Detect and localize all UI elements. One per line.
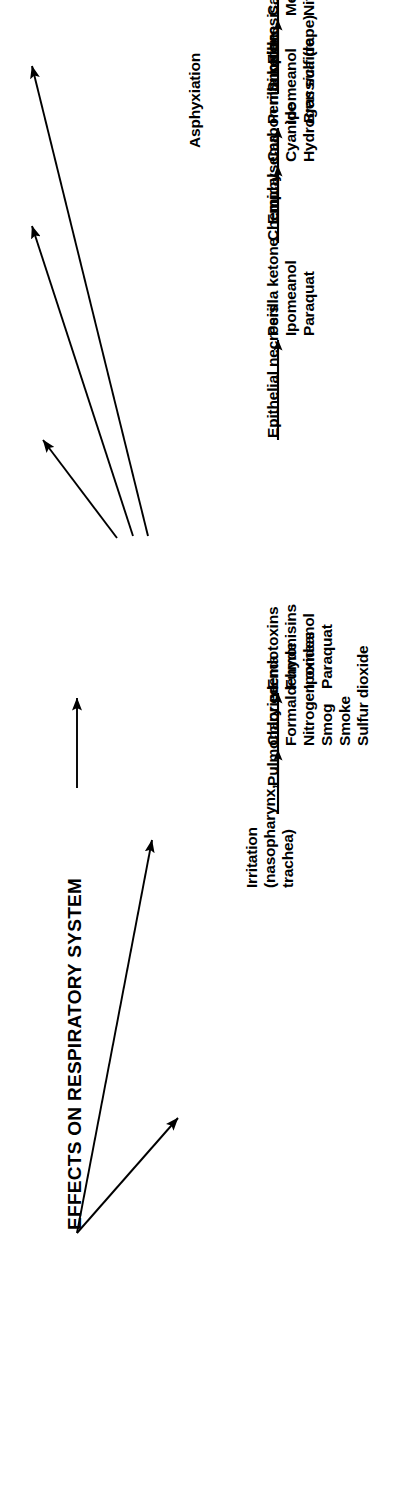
leaf-item: Sulfur dioxide [354, 632, 372, 746]
node-irritation-line1: Irritation [243, 785, 261, 888]
leaf-item-brassica-genus: Brassica [300, 61, 317, 124]
leaf-item: Carbon dioxide [264, 0, 282, 16]
leaf-item: Ipomeanol [282, 15, 300, 124]
leaf-item: Smoke [336, 632, 354, 746]
page-title: EFFECTS ON RESPIRATORY SYSTEM [64, 878, 86, 1230]
node-irritation: Irritation (nasopharynx, trachea) [243, 785, 297, 888]
edge-root-irritation [77, 840, 152, 1233]
edge-root-asphyxiation [77, 1118, 178, 1233]
leaf-item: Nitrogen [300, 0, 318, 16]
leaf-item: Paraquat [318, 604, 336, 689]
leaf-item: Paraquat [300, 238, 318, 336]
leaf-item-brassica: Brassica (rape) [300, 15, 318, 124]
leaf-item: Ipomeanol [300, 604, 318, 689]
leaf-item: Endotoxins [264, 604, 282, 689]
node-irritation-line2: (nasopharynx, [261, 785, 279, 888]
leaf-item: Perilla ketone [264, 15, 282, 124]
leaf-list-epithelial-necrosis: Perilla ketone Ipomeanol Paraquat [264, 238, 318, 336]
leaf-list-simple: Carbon dioxide Methane Nitrogen [264, 0, 318, 16]
leaf-list-emphysema: Perilla ketone Ipomeanol Brassica (rape) [264, 15, 318, 124]
node-asphyxiation: Asphyxiation [186, 53, 204, 148]
leaf-item: Ipomeanol [282, 238, 300, 336]
leaf-list-pulmonary-edema: Endotoxins Fumonisins Ipomeanol Paraquat [264, 604, 336, 689]
edge-root-fibrosis [32, 66, 148, 536]
leaf-item: Fumonisins [282, 604, 300, 689]
leaf-item-brassica-common: (rape) [300, 15, 317, 61]
diagram-page: EFFECTS ON RESPIRATORY SYSTEM Asphyxiati… [0, 0, 411, 1488]
node-irritation-line3: trachea) [279, 785, 297, 888]
leaf-item: Methane [282, 0, 300, 16]
leaf-item: Perilla ketone [264, 238, 282, 336]
diagram-stage: EFFECTS ON RESPIRATORY SYSTEM Asphyxiati… [0, 0, 411, 1488]
